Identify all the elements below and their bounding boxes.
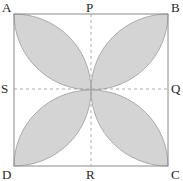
midpoint-label-P: P	[86, 1, 93, 14]
leaf-top-left	[14, 14, 91, 90]
midpoint-label-S: S	[1, 82, 8, 95]
shaded-leaves	[14, 14, 168, 166]
vertex-label-A: A	[2, 1, 11, 14]
leaf-bottom-right	[91, 90, 168, 166]
leaf-top-right	[91, 14, 168, 90]
midpoint-label-R: R	[86, 168, 95, 181]
midpoint-label-Q: Q	[171, 82, 180, 95]
geometry-diagram	[0, 0, 183, 181]
vertex-label-C: C	[171, 168, 180, 181]
vertex-label-D: D	[2, 168, 11, 181]
leaf-bottom-left	[14, 90, 91, 166]
vertex-label-B: B	[171, 1, 180, 14]
